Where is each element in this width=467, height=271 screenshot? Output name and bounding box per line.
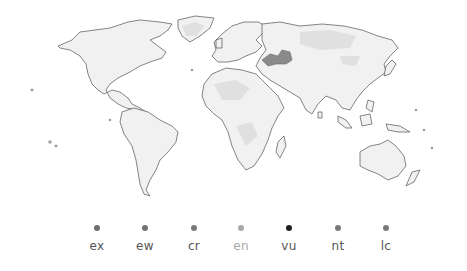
legend-label: vu [269, 239, 309, 253]
africa [202, 68, 284, 170]
legend-item-vu: vu [269, 220, 309, 253]
legend-label: ex [77, 239, 117, 253]
legend-dot-icon [335, 225, 341, 231]
legend-item-en: en [221, 220, 261, 253]
borneo [360, 114, 372, 126]
legend-item-cr: cr [174, 220, 214, 253]
sri-lanka [318, 112, 322, 118]
japan [384, 60, 396, 76]
legend-label: en [221, 239, 261, 253]
legend-dot-icon [142, 225, 148, 231]
legend-label: lc [366, 239, 406, 253]
north-america [58, 20, 172, 112]
legend-item-nt: nt [318, 220, 358, 253]
sumatra [338, 116, 352, 128]
philippines [366, 100, 374, 112]
legend-label: ew [125, 239, 165, 253]
legend-dot-icon [94, 225, 100, 231]
legend-dot-icon [191, 225, 197, 231]
south-america [120, 108, 178, 196]
legend-dot-icon [238, 225, 244, 231]
legend-label: nt [318, 239, 358, 253]
legend-dot-icon [286, 225, 292, 231]
legend-dot-icon [383, 225, 389, 231]
new-zealand [406, 170, 420, 186]
legend-item-ew: ew [125, 220, 165, 253]
map-legend: exewcrenvuntlc [0, 220, 467, 260]
world-map [0, 0, 467, 210]
uk [216, 38, 222, 48]
madagascar [276, 136, 286, 158]
legend-item-ex: ex [77, 220, 117, 253]
legend-item-lc: lc [366, 220, 406, 253]
australia [360, 140, 406, 180]
legend-label: cr [174, 239, 214, 253]
new-guinea [386, 124, 410, 132]
